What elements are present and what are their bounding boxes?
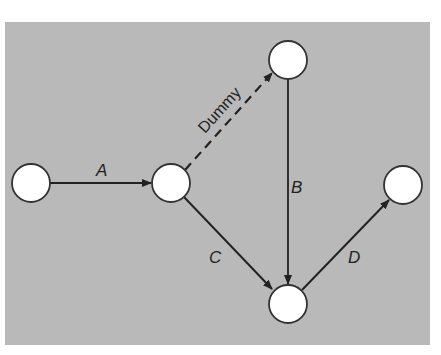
node-5 (269, 285, 307, 323)
label-b: B (291, 178, 302, 197)
edge-d (302, 200, 389, 290)
edge-c (184, 197, 272, 289)
network-diagram: A Dummy B C D (0, 0, 441, 355)
label-d: D (348, 248, 360, 267)
label-a: A (95, 161, 107, 180)
label-c: C (209, 248, 222, 267)
node-1 (12, 164, 50, 202)
node-3 (269, 41, 307, 79)
node-4 (384, 166, 422, 204)
node-2 (152, 164, 190, 202)
label-dummy: Dummy (195, 84, 245, 136)
